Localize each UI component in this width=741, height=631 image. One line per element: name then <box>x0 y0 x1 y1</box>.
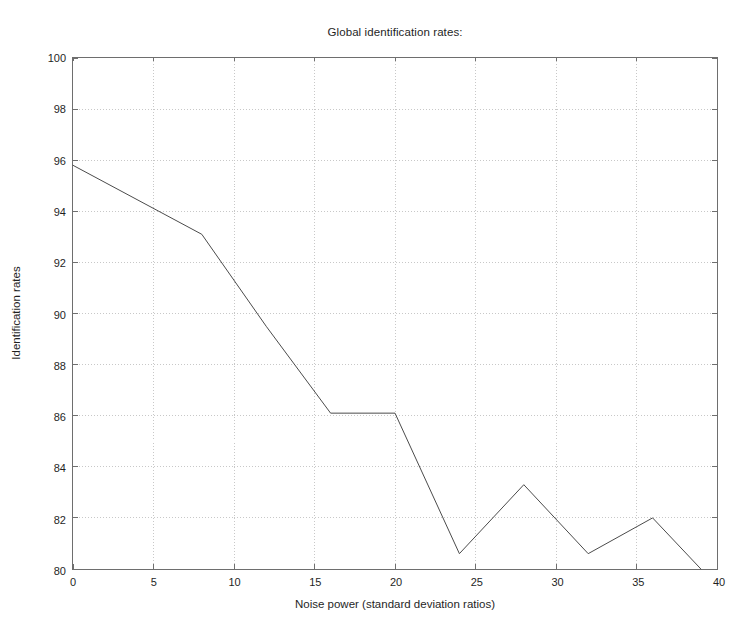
chart-title: Global identification rates: <box>72 26 718 38</box>
x-tick-5: 5 <box>151 576 157 588</box>
data-line-0 <box>73 165 701 569</box>
x-tick-10: 10 <box>228 576 240 588</box>
y-tick-94: 94 <box>54 206 66 218</box>
y-tick-96: 96 <box>54 155 66 167</box>
y-tick-92: 92 <box>54 257 66 269</box>
y-tick-100: 100 <box>48 52 66 64</box>
x-tick-0: 0 <box>70 576 76 588</box>
x-tick-15: 15 <box>309 576 321 588</box>
y-axis-label: Identification rates <box>10 266 22 359</box>
x-tick-25: 25 <box>471 576 483 588</box>
x-tick-35: 35 <box>632 576 644 588</box>
y-tick-98: 98 <box>54 103 66 115</box>
y-tick-90: 90 <box>54 309 66 321</box>
plot-area: 80828486889092949698100 0510152025303540 <box>72 57 718 570</box>
data-series-layer <box>73 58 717 569</box>
x-tick-20: 20 <box>390 576 402 588</box>
x-axis-label: Noise power (standard deviation ratios) <box>72 598 718 610</box>
chart-figure: Global identification rates: 80828486889… <box>0 0 741 631</box>
y-tick-82: 82 <box>54 514 66 526</box>
y-tick-86: 86 <box>54 411 66 423</box>
y-tick-84: 84 <box>54 462 66 474</box>
y-tick-80: 80 <box>54 565 66 577</box>
y-tick-88: 88 <box>54 360 66 372</box>
x-tick-30: 30 <box>551 576 563 588</box>
x-tick-40: 40 <box>713 576 725 588</box>
